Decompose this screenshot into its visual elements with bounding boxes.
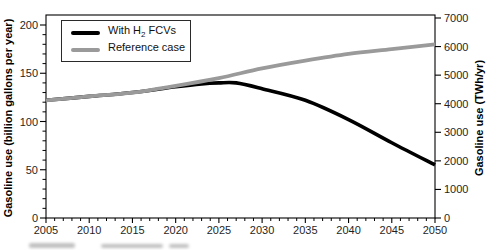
x-tick-label: 2015 [120, 224, 144, 236]
left-tick-label: 50 [26, 164, 38, 176]
left-tick-label: 0 [32, 212, 38, 224]
x-tick-label: 2045 [380, 224, 404, 236]
legend-label-reference-case: Reference case [108, 41, 185, 58]
caption-smudge [101, 244, 163, 248]
left-axis-title: Gasoline use (billion gallons per year) [2, 3, 16, 233]
x-tick-label: 2005 [34, 224, 58, 236]
caption-smudge [29, 243, 75, 248]
right-tick-label: 0 [444, 212, 450, 224]
x-tick-label: 2010 [77, 224, 101, 236]
right-tick-label: 6000 [444, 41, 468, 53]
x-tick-label: 2050 [423, 224, 447, 236]
x-tick-label: 2035 [293, 224, 317, 236]
x-tick-label: 2020 [163, 224, 187, 236]
x-tick-label: 2040 [336, 224, 360, 236]
right-tick-label: 1000 [444, 183, 468, 195]
right-tick-label: 4000 [444, 98, 468, 110]
left-tick-label: 200 [20, 19, 38, 31]
x-tick-label: 2025 [207, 224, 231, 236]
gasoline-use-chart-figure: 0501001502000100020003000400050006000700… [0, 0, 497, 250]
right-tick-label: 3000 [444, 126, 468, 138]
legend-label-with-h2-fcvs: With H2 FCVs [108, 24, 176, 41]
legend: With H2 FCVs Reference case [61, 20, 191, 62]
left-tick-label: 100 [20, 116, 38, 128]
cropped-caption-fragment [0, 242, 497, 250]
legend-swatch-black-line [71, 31, 100, 35]
right-tick-label: 2000 [444, 155, 468, 167]
legend-swatch-gray-line [71, 48, 100, 52]
x-tick-label: 2030 [250, 224, 274, 236]
right-tick-label: 7000 [444, 12, 468, 24]
legend-item-with-h2-fcvs: With H2 FCVs [71, 25, 190, 40]
left-tick-label: 150 [20, 67, 38, 79]
caption-smudge [169, 244, 189, 248]
legend-item-reference-case: Reference case [71, 42, 190, 57]
right-axis-title: Gasoline use (TWh/yr) [473, 38, 487, 198]
right-tick-label: 5000 [444, 69, 468, 81]
